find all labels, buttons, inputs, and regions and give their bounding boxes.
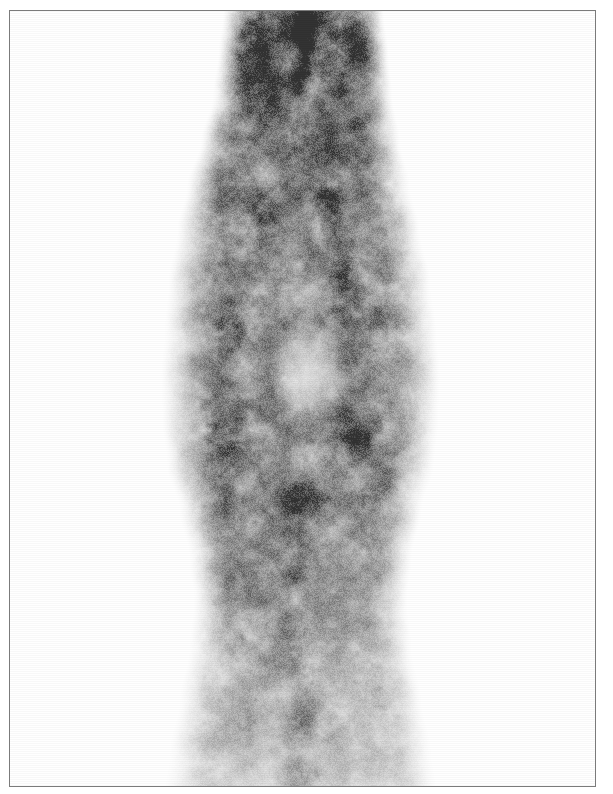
scan-page bbox=[0, 0, 613, 794]
scintigraphy-image bbox=[10, 11, 595, 786]
scintigraphy-canvas bbox=[10, 11, 595, 786]
